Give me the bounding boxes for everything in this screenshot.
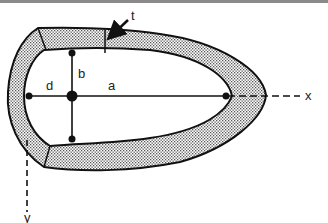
thickness-label: t: [131, 8, 135, 23]
left-node: [26, 93, 33, 100]
center-node: [67, 91, 78, 102]
right-node: [223, 93, 230, 100]
top-node: [69, 50, 76, 57]
bottom-node: [69, 136, 76, 143]
y-axis-label: y: [24, 210, 31, 223]
x-axis-label: x: [305, 88, 312, 103]
shell-cross-section-diagram: t x y b d a: [0, 0, 328, 223]
semi-minor-label: b: [78, 66, 85, 81]
offset-label: d: [46, 78, 53, 93]
semi-major-label: a: [108, 78, 116, 93]
